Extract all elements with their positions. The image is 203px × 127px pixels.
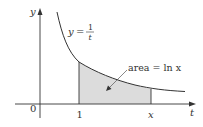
curve-label-eq: = bbox=[76, 26, 84, 37]
curve-one-over-t bbox=[57, 12, 185, 92]
curve-label-lhs: y bbox=[67, 26, 74, 37]
tick-label-1: 1 bbox=[77, 109, 83, 120]
ln-area-diagram: y t 0 1 x y = 1 t area = ln x bbox=[0, 0, 203, 127]
y-axis-label: y bbox=[29, 6, 36, 17]
t-axis-arrow-icon bbox=[189, 102, 196, 107]
t-axis-label: t bbox=[190, 107, 195, 118]
curve-label-num: 1 bbox=[88, 23, 93, 32]
curve-label-den: t bbox=[89, 33, 93, 42]
tick-label-x: x bbox=[148, 109, 154, 120]
origin-label: 0 bbox=[30, 103, 36, 114]
y-axis-arrow-icon bbox=[38, 8, 43, 15]
area-label: area = ln x bbox=[128, 62, 182, 73]
